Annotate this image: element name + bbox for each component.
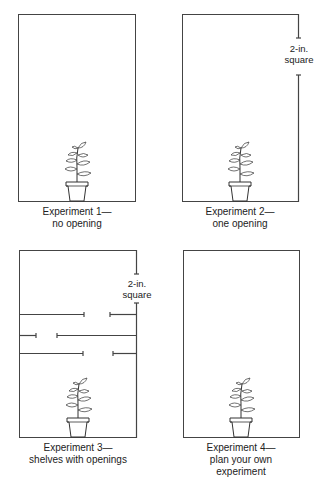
experiment-4-caption: Experiment 4— plan your own experiment <box>171 442 311 478</box>
caption-line2: shelves with openings <box>8 454 148 466</box>
plant-icon-3 <box>66 378 92 437</box>
experiment-3-shelves <box>19 312 137 356</box>
caption-line3: experiment <box>171 466 311 478</box>
caption-line1: Experiment 2— <box>170 206 310 218</box>
caption-line2: plan your own <box>171 454 311 466</box>
plant-icon-4 <box>229 378 255 437</box>
opening-label-line2: square <box>119 289 155 300</box>
plant-icon-1 <box>65 142 91 201</box>
experiment-2-caption: Experiment 2— one opening <box>170 206 310 230</box>
caption-line2: one opening <box>170 218 310 230</box>
opening-label-line1: 2-in. <box>281 43 317 54</box>
opening-label-line1: 2-in. <box>119 278 155 289</box>
caption-line2: no opening <box>7 218 147 230</box>
opening-label-line2: square <box>281 54 317 65</box>
diagram-linework <box>0 0 319 483</box>
experiment-1-caption: Experiment 1— no opening <box>7 206 147 230</box>
plant-icon-2 <box>228 142 254 201</box>
experiment-3-opening-label: 2-in. square <box>119 278 155 300</box>
caption-line1: Experiment 3— <box>8 442 148 454</box>
experiment-2-opening-label: 2-in. square <box>281 43 317 65</box>
caption-line1: Experiment 1— <box>7 206 147 218</box>
experiment-3-caption: Experiment 3— shelves with openings <box>8 442 148 466</box>
caption-line1: Experiment 4— <box>171 442 311 454</box>
